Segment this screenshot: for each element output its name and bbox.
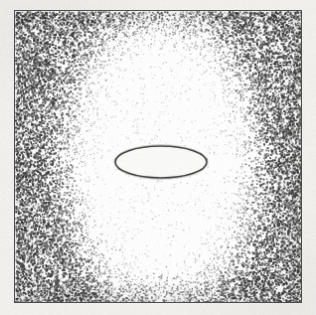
plate-border: [14, 10, 302, 303]
stipple-noise-field: [15, 11, 301, 302]
figure-root: Stippled field with central highlighted …: [0, 0, 316, 315]
